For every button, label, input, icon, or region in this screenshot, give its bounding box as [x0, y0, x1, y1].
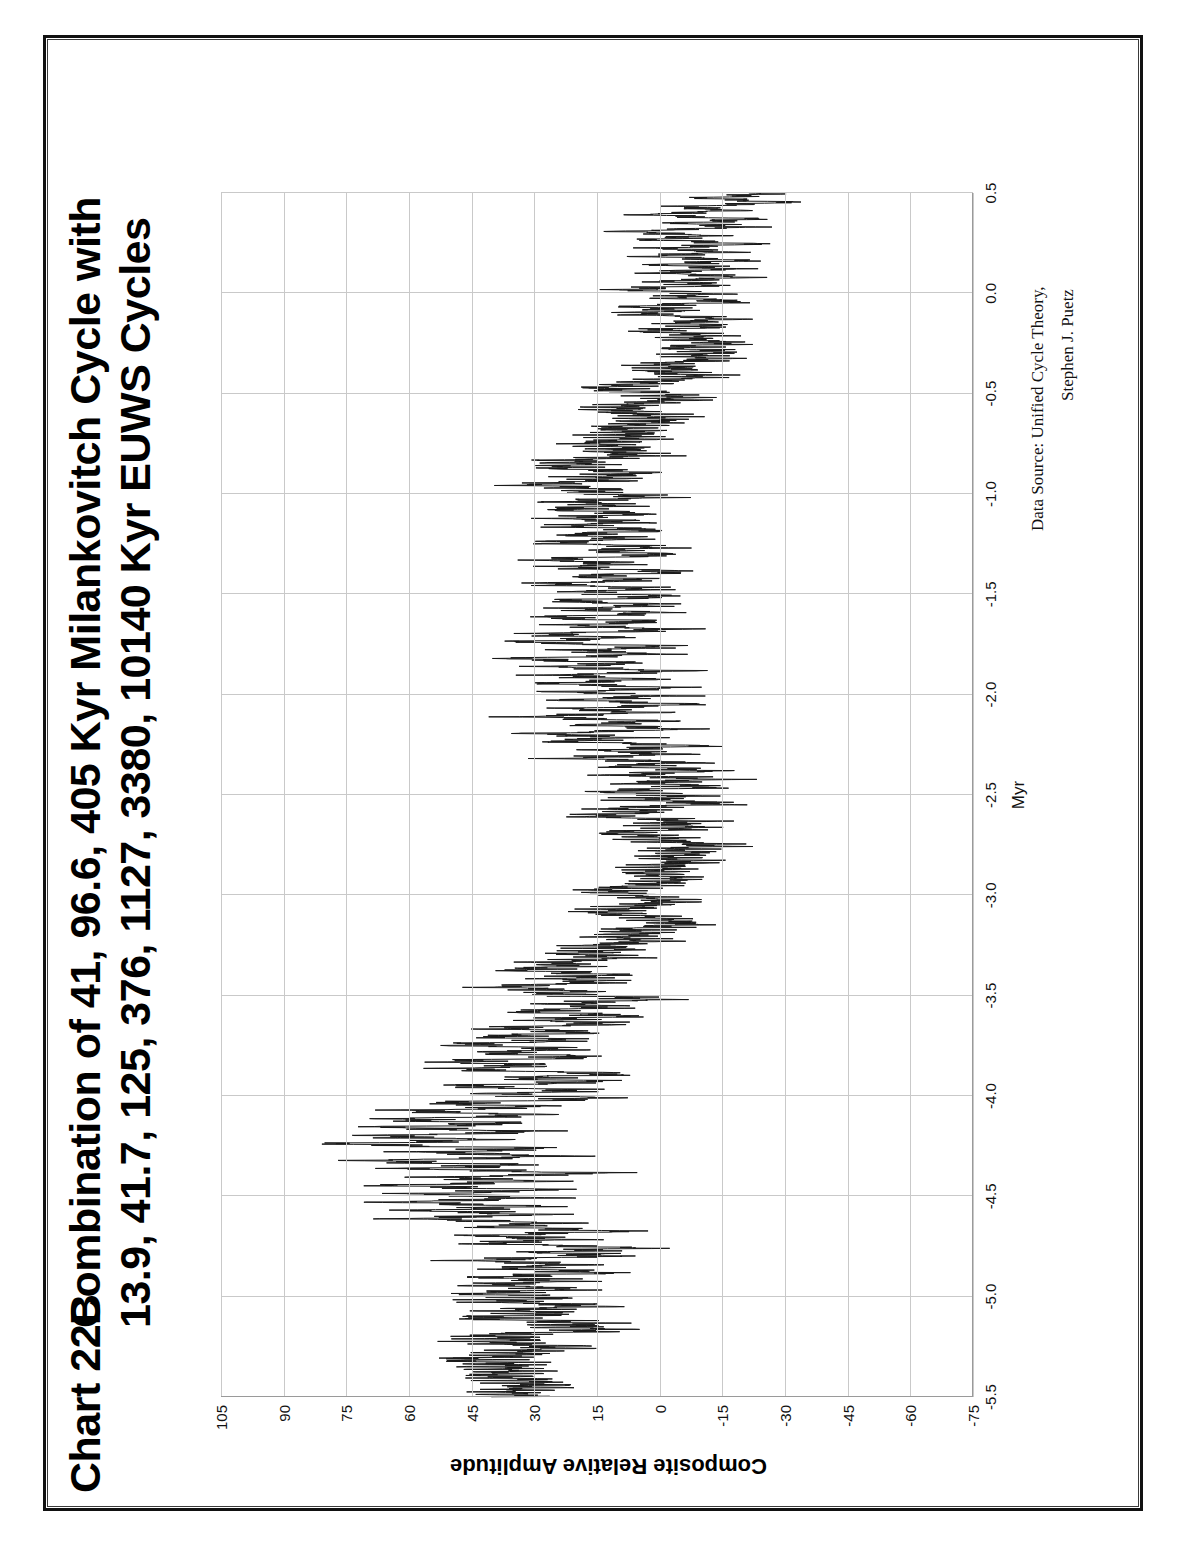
- y-gridline: [472, 193, 473, 1397]
- y-gridline: [284, 193, 285, 1397]
- y-axis-tick-label: 105: [213, 1405, 230, 1443]
- x-axis-tick-label: -5.0: [982, 1284, 999, 1310]
- x-axis-tick-label: -1.0: [982, 481, 999, 507]
- y-axis-tick-label: 60: [401, 1405, 418, 1443]
- y-gridline: [409, 193, 410, 1397]
- data-source-line-2: Stephen J. Puetz: [1058, 289, 1078, 401]
- y-gridline: [534, 193, 535, 1397]
- y-axis-title: Composite Relative Amplitude: [450, 1453, 767, 1479]
- series-line: [322, 193, 801, 1397]
- y-axis-tick-label: -45: [839, 1405, 856, 1443]
- y-gridline: [848, 193, 849, 1397]
- x-axis-tick-label: -5.5: [982, 1384, 999, 1410]
- x-axis-tick-label: -2.5: [982, 782, 999, 808]
- y-axis-tick-label: -30: [777, 1405, 794, 1443]
- y-axis-tick-label: 75: [338, 1405, 355, 1443]
- y-axis-tick-label: -60: [902, 1405, 919, 1443]
- rotated-chart-container: Chart 22B Combination of 41, 96.6, 405 K…: [43, 35, 1143, 1511]
- y-gridline: [660, 193, 661, 1397]
- y-axis-tick-label: -15: [714, 1405, 731, 1443]
- chart-title-line-2: 13.9, 41.7, 125, 376, 1127, 3380, 10140 …: [111, 218, 160, 1328]
- x-axis-tick-label: 0.5: [982, 183, 999, 204]
- x-axis-title: Myr: [1009, 781, 1029, 809]
- plot-inner: -5.5-5.0-4.5-4.0-3.5-3.0-2.5-2.0-1.5-1.0…: [221, 193, 973, 1397]
- y-gridline: [722, 193, 723, 1397]
- x-axis-tick-label: 0.0: [982, 283, 999, 304]
- x-axis-tick-label: -2.0: [982, 682, 999, 708]
- y-gridline: [597, 193, 598, 1397]
- y-gridline: [221, 193, 222, 1397]
- y-gridline: [785, 193, 786, 1397]
- y-axis-tick-label: -75: [965, 1405, 982, 1443]
- y-axis-line: [221, 1396, 973, 1397]
- chart-title-line-1: Combination of 41, 96.6, 405 Kyr Milanko…: [61, 197, 110, 1328]
- plot-area: -5.5-5.0-4.5-4.0-3.5-3.0-2.5-2.0-1.5-1.0…: [221, 193, 973, 1397]
- y-axis-tick-label: 30: [526, 1405, 543, 1443]
- chart-upright-canvas: Chart 22B Combination of 41, 96.6, 405 K…: [43, 35, 1143, 1511]
- y-gridline: [973, 193, 974, 1397]
- x-axis-tick-label: -4.5: [982, 1183, 999, 1209]
- y-gridline: [346, 193, 347, 1397]
- x-axis-tick-label: -4.0: [982, 1083, 999, 1109]
- page-root: Chart 22B Combination of 41, 96.6, 405 K…: [0, 0, 1180, 1557]
- y-axis-tick-label: 0: [651, 1405, 668, 1443]
- x-axis-tick-label: -3.0: [982, 882, 999, 908]
- y-axis-tick-label: 90: [275, 1405, 292, 1443]
- y-gridline: [910, 193, 911, 1397]
- y-axis-tick-label: 45: [463, 1405, 480, 1443]
- y-axis-tick-label: 15: [589, 1405, 606, 1443]
- x-axis-tick-label: -3.5: [982, 983, 999, 1009]
- data-source-line-1: Data Source: Unified Cycle Theory,: [1028, 286, 1048, 531]
- x-axis-line: [972, 193, 973, 1397]
- x-axis-tick-label: -0.5: [982, 381, 999, 407]
- x-axis-tick-label: -1.5: [982, 581, 999, 607]
